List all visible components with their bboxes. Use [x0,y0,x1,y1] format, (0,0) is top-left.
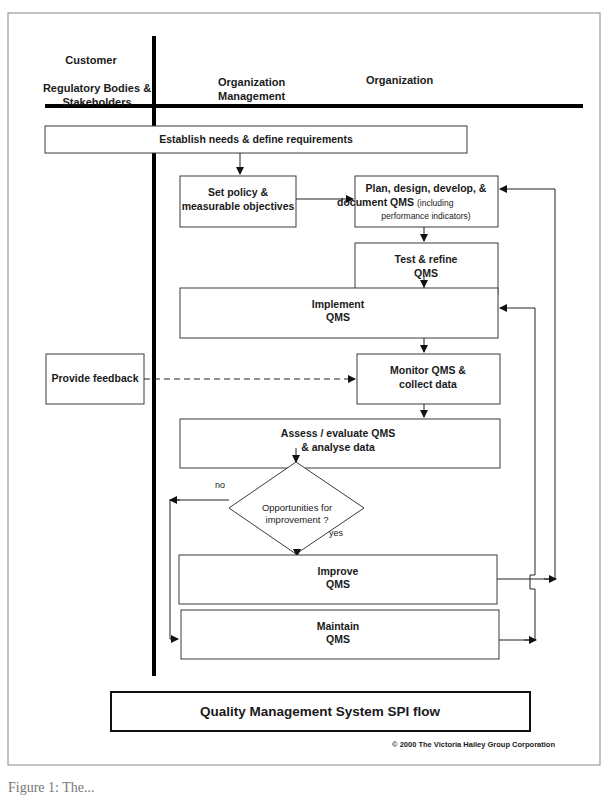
copyright: © 2000 The Victoria Hailey Group Corpora… [392,740,555,749]
diagram-title-box: Quality Management System SPI flow [111,692,530,731]
lane-org-title: Organization [366,74,434,86]
node-plan-qms: Plan, design, develop, & document QMS (i… [337,176,498,227]
node-implement: Implement QMS [180,288,498,338]
arrow-maintain-to-implement [499,308,535,640]
svg-text:& analyse data: & analyse data [301,441,375,453]
node-test-refine: Test & refine QMS [355,243,498,294]
svg-text:QMS: QMS [414,267,438,279]
svg-text:Assess / evaluate QMS: Assess / evaluate QMS [281,427,395,439]
svg-text:improvement ?: improvement ? [266,514,329,525]
svg-text:Opportunities for: Opportunities for [262,502,332,513]
node-monitor-qms: Monitor QMS & collect data [357,354,500,404]
svg-text:measurable objectives: measurable objectives [182,200,295,212]
lane-mgmt-title: Organization [218,76,286,88]
svg-text:Implement: Implement [312,298,365,310]
label-yes: yes [329,528,344,538]
svg-text:performance indicators): performance indicators) [381,211,470,221]
node-provide-feedback: Provide feedback [46,354,144,404]
svg-text:QMS: QMS [326,311,350,323]
lane-customer-subtitle: Regulatory Bodies & [43,82,151,94]
svg-text:Monitor QMS &: Monitor QMS & [390,364,466,376]
decision-opportunities: Opportunities for improvement ? [229,462,364,554]
node-establish: Establish needs & define requirements [45,126,467,153]
svg-text:Plan, design, develop, &: Plan, design, develop, & [366,182,487,194]
node-improve-qms: Improve QMS [179,555,497,604]
svg-text:Improve: Improve [318,565,359,577]
svg-text:Test & refine: Test & refine [395,253,458,265]
svg-text:QMS: QMS [326,578,350,590]
figure-caption-partial: Figure 1: The... [8,780,94,796]
svg-text:document QMS: document QMS [337,196,414,208]
node-assess-qms: Assess / evaluate QMS & analyse data [180,419,500,468]
svg-text:Quality Management System SPI: Quality Management System SPI flow [200,704,441,719]
lane-mgmt-title-2: Management [218,90,286,102]
svg-text:Establish needs & define requi: Establish needs & define requirements [159,133,353,145]
arrow-improve-to-plan [497,189,555,579]
lane-customer-title: Customer [65,54,117,66]
svg-text:Provide feedback: Provide feedback [52,372,139,384]
svg-text:Set policy &: Set policy & [208,186,269,198]
node-set-policy: Set policy & measurable objectives [180,176,296,227]
svg-text:collect data: collect data [399,378,457,390]
svg-text:QMS: QMS [326,633,350,645]
svg-text:Maintain: Maintain [317,620,360,632]
label-no: no [215,480,225,490]
svg-text:(including: (including [417,198,454,208]
node-maintain-qms: Maintain QMS [181,610,499,659]
lane-customer-subtitle-2: Stakeholders [62,96,131,108]
